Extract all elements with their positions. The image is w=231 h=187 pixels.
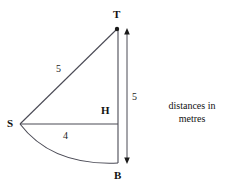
vertex-dot-t <box>115 27 119 31</box>
vertex-label-b: B <box>114 170 121 181</box>
measure-label-vertical: 5 <box>132 92 137 102</box>
geometry-drawing <box>0 0 231 187</box>
measure-label-slant: 5 <box>56 64 61 74</box>
vertex-label-s: S <box>7 118 13 129</box>
vertex-label-h: H <box>101 105 110 116</box>
arrowhead-up-icon <box>124 28 130 35</box>
units-caption-line2: metres <box>156 113 228 126</box>
vertex-label-t: T <box>113 9 120 20</box>
arrowhead-down-icon <box>124 158 130 165</box>
units-caption-line1: distances in <box>156 100 228 113</box>
units-caption: distances in metres <box>156 100 228 125</box>
geometry-figure: T S H B 5 4 5 distances in metres <box>0 0 231 187</box>
measure-label-horizontal: 4 <box>63 131 68 141</box>
arc-s-to-b <box>20 124 118 163</box>
